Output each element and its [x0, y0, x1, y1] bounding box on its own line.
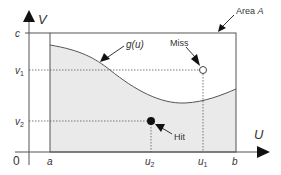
u2-label: u2: [145, 156, 155, 168]
v2-label: v2: [15, 116, 24, 128]
b-label: b: [232, 156, 238, 167]
miss-pointer: [186, 47, 195, 57]
c-label: c: [15, 28, 20, 39]
area-a-label: Area A: [236, 6, 264, 16]
u1-label: u1: [198, 156, 208, 168]
v1-label: v1: [15, 65, 24, 77]
miss-label: Miss: [170, 38, 189, 48]
v-axis-label: V: [38, 12, 48, 27]
miss-pointer-head-icon: [191, 54, 200, 66]
hit-label: Hit: [174, 132, 185, 142]
g-u-label: g(u): [126, 39, 144, 50]
a-label: a: [47, 156, 53, 167]
u-axis-label: U: [254, 127, 264, 142]
area-a-pointer: [222, 15, 234, 27]
g-u-pointer: [108, 46, 124, 57]
origin-label: 0: [13, 154, 20, 168]
area-under-curve: [50, 45, 236, 152]
g-u-pointer-head-icon: [100, 53, 110, 62]
v-axis-arrow-icon: [23, 10, 35, 22]
hit-or-miss-diagram: V U 0 c v1 v2 a u2 u1 b Area A g(u) Miss…: [0, 0, 281, 175]
u-axis-arrow-icon: [257, 146, 270, 158]
area-a-pointer-head-icon: [218, 24, 226, 32]
miss-point: [200, 67, 207, 74]
hit-point: [147, 117, 155, 125]
